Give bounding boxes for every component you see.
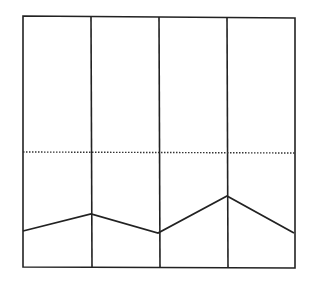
dotted-reference-line	[23, 152, 295, 153]
zigzag-line	[23, 196, 294, 233]
divider-line-3	[227, 17, 228, 268]
divider-line-1	[91, 17, 92, 268]
diagram-canvas	[0, 0, 314, 281]
vertical-dividers	[91, 17, 228, 268]
divider-line-2	[159, 17, 160, 268]
